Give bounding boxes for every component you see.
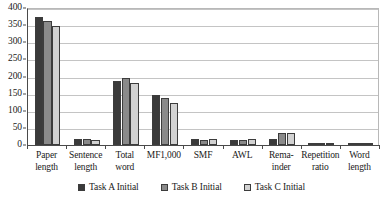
legend-label: Task B Initial: [172, 183, 222, 193]
chart-legend: Task A InitialTask B InitialTask C Initi…: [0, 183, 383, 193]
x-axis-tick-mark: [183, 145, 184, 149]
y-axis-tick-mark: [23, 93, 26, 94]
x-axis-tick-mark: [223, 145, 224, 149]
x-axis-labels: PaperlengthSentencelengthTotalwordMF1,00…: [27, 150, 379, 180]
y-axis-tick-label: 100: [8, 106, 22, 116]
y-axis-tick-label: 300: [8, 38, 22, 48]
y-axis-tick-label: 50: [13, 123, 22, 133]
bar-group: [106, 9, 145, 145]
y-axis-tick-mark: [23, 76, 26, 77]
legend-label: Task A Initial: [89, 183, 139, 193]
y-axis-tick-label: 150: [8, 89, 22, 99]
legend-swatch-icon: [161, 184, 168, 191]
y-axis-tick-mark: [23, 25, 26, 26]
x-axis-tick-mark: [144, 145, 145, 149]
y-axis-tick-mark: [23, 8, 26, 9]
x-axis-tick-mark: [66, 145, 67, 149]
bar-group: [224, 9, 263, 145]
x-axis-tick-mark: [27, 145, 28, 149]
legend-item[interactable]: Task A Initial: [78, 183, 139, 193]
y-axis-tick-mark: [23, 127, 26, 128]
y-axis-tick-label: 400: [8, 3, 22, 13]
bar: [152, 95, 160, 145]
x-axis-tick-mark: [340, 145, 341, 149]
x-axis-tick-mark: [105, 145, 106, 149]
bar: [35, 17, 43, 145]
y-axis-tick-mark: [23, 59, 26, 60]
bar: [278, 133, 286, 145]
bar-group: [145, 9, 184, 145]
legend-swatch-icon: [78, 184, 85, 191]
x-axis-tick-mark: [262, 145, 263, 149]
x-axis-tick-mark: [301, 145, 302, 149]
bar: [170, 103, 178, 145]
y-axis-tick-label: 200: [8, 72, 22, 82]
bar: [130, 83, 138, 145]
legend-label: Task C Initial: [255, 183, 305, 193]
x-axis-tick-mark: [379, 145, 380, 149]
y-axis-tick-label: 350: [8, 20, 22, 30]
bar: [43, 21, 51, 145]
x-axis-category-label: Wordlength: [334, 150, 383, 173]
bar: [52, 26, 60, 145]
bar: [113, 81, 121, 145]
bar-group: [302, 9, 341, 145]
legend-item[interactable]: Task C Initial: [244, 183, 305, 193]
plot-area: [27, 8, 379, 145]
bar-group: [67, 9, 106, 145]
bar: [122, 78, 130, 145]
y-axis-tick-mark: [23, 145, 26, 146]
legend-swatch-icon: [244, 184, 251, 191]
bar: [287, 133, 295, 145]
y-axis-tick-label: 0: [17, 140, 22, 150]
y-axis-tick-mark: [23, 42, 26, 43]
y-axis-tick-label: 250: [8, 55, 22, 65]
bar-chart: 050100150200250300350400 PaperlengthSent…: [0, 0, 383, 204]
bars-layer: [28, 9, 378, 145]
legend-item[interactable]: Task B Initial: [161, 183, 222, 193]
bar: [161, 98, 169, 145]
x-axis-line: [27, 145, 379, 146]
bar-group: [341, 9, 380, 145]
bar-group: [184, 9, 223, 145]
bar-group: [263, 9, 302, 145]
y-axis: 050100150200250300350400: [0, 0, 26, 152]
bar-group: [28, 9, 67, 145]
y-axis-tick-mark: [23, 110, 26, 111]
